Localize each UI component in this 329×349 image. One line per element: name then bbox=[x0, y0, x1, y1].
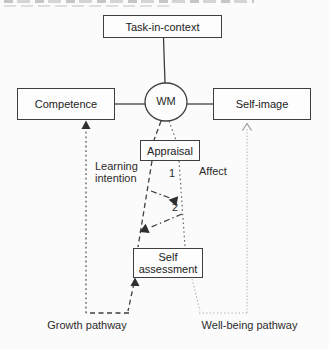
arrowhead-into-self-assessment bbox=[131, 278, 140, 287]
edge-label-learning-intention: Learning intention bbox=[95, 161, 151, 184]
edge-wm-to-appraisal-dashed bbox=[154, 121, 161, 140]
arrowhead-interaction-2 bbox=[137, 224, 149, 237]
diagram-canvas: Task-in-context Competence Self-image WM… bbox=[0, 0, 329, 349]
wellbeing-path-diagonal bbox=[192, 279, 200, 311]
edge-interaction-1 bbox=[151, 191, 170, 198]
edge-label-2: 2 bbox=[172, 202, 182, 214]
arrowhead-into-competence bbox=[82, 121, 91, 130]
node-self-assessment: Self assessment bbox=[133, 248, 203, 278]
growth-pathway-label: Growth pathway bbox=[36, 320, 138, 332]
edge-wm-to-appraisal-dotted bbox=[169, 121, 176, 140]
node-task-in-context: Task-in-context bbox=[103, 15, 222, 38]
edge-label-1: 1 bbox=[169, 168, 179, 180]
wellbeing-pathway-label: Well-being pathway bbox=[197, 320, 302, 332]
node-competence-label: Competence bbox=[35, 98, 97, 110]
edge-task-to-wm bbox=[164, 38, 166, 83]
node-appraisal-label: Appraisal bbox=[147, 145, 193, 157]
node-appraisal: Appraisal bbox=[140, 140, 200, 161]
connector-lines bbox=[0, 0, 329, 349]
edge-label-affect: Affect bbox=[199, 166, 241, 178]
node-self-image: Self-image bbox=[213, 88, 311, 120]
growth-path-diagonal bbox=[128, 283, 134, 311]
edge-interaction-2 bbox=[149, 214, 182, 228]
node-self-image-label: Self-image bbox=[236, 98, 289, 110]
node-competence: Competence bbox=[17, 88, 115, 120]
node-task-in-context-label: Task-in-context bbox=[126, 21, 200, 33]
node-wm-label: WM bbox=[146, 96, 186, 108]
node-self-assessment-label: Self assessment bbox=[139, 251, 198, 275]
